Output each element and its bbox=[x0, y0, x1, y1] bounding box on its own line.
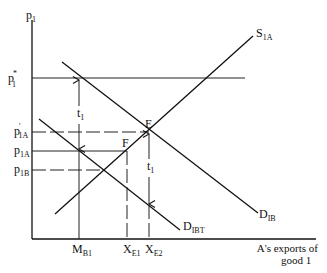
y-axis-label: p1 bbox=[26, 8, 36, 24]
p1a-label: p1A bbox=[14, 143, 30, 159]
p1-star-label: p*1 bbox=[8, 69, 17, 89]
demand-curve-d1bt bbox=[39, 119, 180, 230]
xe1-label: XE1 bbox=[123, 242, 141, 258]
x-axis-label-line1: A's exports of bbox=[257, 242, 319, 254]
s1a-label: S1A bbox=[256, 26, 273, 42]
p1b-label: p1B bbox=[14, 162, 29, 178]
tariff-diagram: p1 A's exports of good 1 p*1 p'1A p1A p1… bbox=[0, 0, 327, 273]
supply-curve-s1a bbox=[55, 36, 253, 214]
xe2-label: XE2 bbox=[145, 242, 163, 258]
x-axis-label-line2: good 1 bbox=[281, 254, 311, 266]
d1b-label: DIB bbox=[259, 207, 276, 223]
point-f-label: F bbox=[122, 136, 129, 150]
demand-curve-d1b bbox=[62, 62, 258, 213]
d1bt-label: DIBT bbox=[183, 219, 205, 235]
p1a-prime-label: p'1A bbox=[14, 122, 28, 140]
point-e-label: E bbox=[145, 117, 152, 131]
mb1-label: MB1 bbox=[72, 242, 92, 258]
